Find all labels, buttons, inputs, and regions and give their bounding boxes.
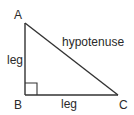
right-angle-marker: [25, 83, 37, 95]
hypotenuse-label: hypotenuse: [62, 35, 124, 49]
horizontal-leg-label: leg: [61, 97, 77, 111]
right-triangle-diagram: A B C leg leg hypotenuse: [0, 0, 134, 115]
vertical-leg-label: leg: [7, 53, 23, 67]
vertex-c-label: C: [119, 98, 128, 112]
side-ac-hypotenuse: [25, 23, 118, 95]
vertex-b-label: B: [14, 98, 22, 112]
vertex-a-label: A: [14, 8, 22, 22]
